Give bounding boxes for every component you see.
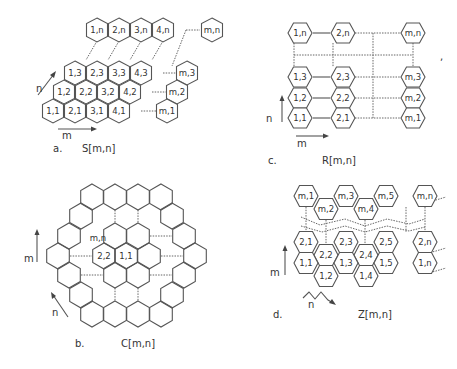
cell-label: m,2 [405, 93, 421, 103]
cell-label: 1,4 [359, 271, 373, 281]
cell-label: 4,1 [112, 106, 126, 116]
cell-label: 2,2 [319, 250, 333, 260]
cell-label: m,4 [358, 204, 374, 214]
cell-label: 2,3 [90, 68, 104, 78]
cell-label: 2,2 [97, 251, 111, 261]
cell-label: 3,3 [112, 68, 126, 78]
cell-label: 2,3 [336, 72, 350, 82]
cell-label: 1,1 [46, 106, 60, 116]
cell-label: 1,2 [319, 271, 333, 281]
cell-label: 1,3 [293, 72, 307, 82]
panel-caption: R[m,n] [322, 155, 356, 166]
cell-label: m,n [405, 28, 421, 38]
axis-label-n: n [52, 307, 58, 318]
cell-label: 4,3 [134, 68, 148, 78]
cell-label: 2,5 [379, 237, 393, 247]
cell-label: 1,1 [293, 113, 307, 123]
arrow-m-icon [283, 245, 288, 275]
cell-label: m,3 [338, 191, 354, 201]
cell-label: 2,n [112, 25, 126, 35]
cell-label: 1,2 [293, 93, 307, 103]
panel-b-c-structure: 2,2 1,1 m,n m n b. C[m,n] [24, 184, 206, 349]
cell-label: 1,n [418, 258, 432, 268]
cell-label: 3,1 [90, 106, 104, 116]
axis-label-n: n [266, 113, 272, 124]
cell-label: 1,3 [68, 68, 82, 78]
axis-label-m: m [24, 253, 34, 264]
cell-label: 1,1 [299, 258, 313, 268]
row-n: 1,n 2,n 3,n 4,n [87, 18, 174, 42]
panel-caption: Z[m,n] [358, 309, 392, 320]
cell-label: 1,2 [57, 87, 71, 97]
cell-label: m,1 [298, 191, 314, 201]
axis-label-m: m [270, 267, 280, 278]
panel-caption: C[m,n] [121, 338, 155, 349]
cell-label: m,1 [405, 113, 421, 123]
figure-canvas: 1,n 2,n 3,n 4,n m,n 1,3 2,3 3,3 4,3 m,3 … [0, 0, 457, 369]
cell-label: 4,n [156, 25, 170, 35]
cell-label: 1,n [293, 28, 307, 38]
cell-label: 1,3 [339, 258, 353, 268]
cell-label: m,5 [378, 191, 394, 201]
cell-label: 1,1 [119, 251, 133, 261]
cell-label: m,2 [169, 87, 185, 97]
axis-label-n: n [308, 299, 314, 310]
cell-label: m,3 [405, 72, 421, 82]
cell-label: 2,2 [336, 93, 350, 103]
cell-label: 1,5 [379, 258, 393, 268]
cell-label: 3,n [134, 25, 148, 35]
panel-letter: b. [75, 338, 85, 349]
cell-label: 2,1 [68, 106, 82, 116]
cell-label: m,2 [318, 204, 334, 214]
cell-label: 2,1 [299, 237, 313, 247]
cell-label: 2,4 [359, 250, 373, 260]
axis-label-m: m [62, 130, 72, 141]
panel-letter: a. [53, 143, 62, 154]
panel-letter: d. [273, 309, 283, 320]
arrow-m-icon [35, 229, 40, 262]
cell-label: 2,2 [79, 87, 93, 97]
arrow-n-icon [280, 95, 285, 122]
cell-label: 2,1 [336, 113, 350, 123]
panel-a-s-structure: 1,n 2,n 3,n 4,n m,n 1,3 2,3 3,3 4,3 m,3 … [36, 18, 223, 154]
panel-d-z-structure: m,1 m,2 m,3 m,4 m,5 m,n 2,1 2,2 2,3 2,4 … [270, 186, 446, 321]
cell-label: 4,2 [123, 87, 137, 97]
panel-c-r-structure: 1,n 2,n m,n 1,3 2,3 m,3 1,2 2,2 m,2 1,1 … [266, 23, 443, 166]
stray-comma: , [440, 51, 443, 62]
cell-label: m,1 [159, 106, 175, 116]
cell-label: 1,n [90, 25, 104, 35]
axis-label-m: m [297, 138, 307, 149]
cell-label: m,n [204, 25, 220, 35]
cell-label: 2,n [418, 237, 432, 247]
cell-label: 3,2 [101, 87, 115, 97]
cell-label: 2,3 [339, 237, 353, 247]
cell-label: m,n [90, 233, 106, 243]
cell-label: m,n [417, 191, 433, 201]
panel-caption: S[m,n] [82, 143, 116, 154]
panel-letter: c. [268, 155, 277, 166]
cell-label: 2,n [336, 28, 350, 38]
axis-label-n: n [36, 83, 42, 94]
cell-label: m,3 [179, 68, 195, 78]
